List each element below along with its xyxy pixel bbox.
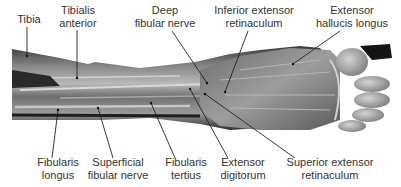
- toe-2: [354, 76, 390, 92]
- label-text: Deep: [135, 4, 196, 17]
- toe-3: [354, 92, 390, 108]
- label-text: fibular nerve: [135, 17, 196, 30]
- label-fibularis-longus: Fibularislongus: [37, 156, 79, 182]
- toe-5: [338, 120, 366, 132]
- toe-4: [352, 108, 384, 122]
- leader-dot-superficial-fibular-nerve: [97, 107, 99, 109]
- label-text: longus: [37, 169, 79, 182]
- great-toe: [336, 48, 368, 76]
- label-text: Superficial: [88, 156, 149, 169]
- leader-dot-tibialis-anterior: [76, 77, 78, 79]
- label-text: retinaculum: [214, 17, 293, 30]
- label-text: digitorum: [220, 169, 265, 182]
- label-text: hallucis longus: [316, 17, 388, 30]
- label-superficial-fibular-nerve: Superficialfibular nerve: [88, 156, 149, 182]
- leader-dot-inferior-extensor-retinaculum: [224, 91, 226, 93]
- label-text: Tibialis: [59, 4, 96, 17]
- label-text: Extensor: [316, 4, 388, 17]
- label-text: Tibia: [17, 13, 40, 26]
- label-deep-fibular-nerve: Deepfibular nerve: [135, 4, 196, 30]
- leader-dot-extensor-hallucis-longus: [292, 63, 294, 65]
- label-text: fibular nerve: [88, 169, 149, 182]
- label-text: Fibularis: [165, 156, 207, 169]
- label-text: anterior: [59, 17, 96, 30]
- label-superior-extensor-retinaculum: Superior extensorretinaculum: [287, 156, 374, 182]
- label-inferior-extensor-retinaculum: Inferior extensorretinaculum: [214, 4, 293, 30]
- label-extensor-digitorum: Extensordigitorum: [220, 156, 265, 182]
- label-extensor-hallucis-longus: Extensorhallucis longus: [316, 4, 388, 30]
- label-tibia: Tibia: [17, 13, 40, 26]
- label-text: retinaculum: [287, 169, 374, 182]
- leader-dot-fibularis-tertius: [150, 102, 152, 104]
- label-text: Extensor: [220, 156, 265, 169]
- label-fibularis-tertius: Fibularistertius: [165, 156, 207, 182]
- leader-dot-superior-extensor-retinaculum: [204, 93, 206, 95]
- label-text: Superior extensor: [287, 156, 374, 169]
- anatomy-figure: TibiaTibialisanteriorDeepfibular nerveIn…: [0, 0, 401, 187]
- leader-dot-tibia: [26, 55, 28, 57]
- label-text: tertius: [165, 169, 207, 182]
- leader-dot-fibularis-longus: [57, 109, 59, 111]
- label-text: Inferior extensor: [214, 4, 293, 17]
- leader-dot-deep-fibular-nerve: [206, 82, 208, 84]
- label-text: Fibularis: [37, 156, 79, 169]
- leader-dot-extensor-digitorum: [189, 88, 191, 90]
- label-tibialis-anterior: Tibialisanterior: [59, 4, 96, 30]
